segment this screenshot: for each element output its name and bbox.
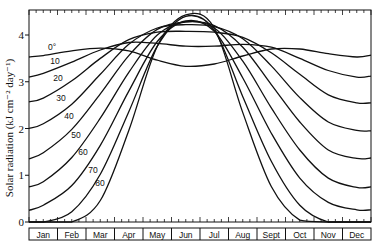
curve-label: 80 (95, 178, 105, 188)
month-label-may: May (149, 230, 166, 240)
y-axis-ticks: 01234 (19, 29, 30, 228)
y-tick-label: 0 (19, 216, 25, 228)
month-label-nov: Nov (321, 230, 337, 240)
curve-label: 0° (48, 42, 56, 52)
month-label-sept: Sept (263, 230, 281, 240)
curve-label: 10 (50, 56, 60, 66)
curve-latitude-80 (29, 13, 371, 222)
month-label-dec: Dec (349, 230, 365, 240)
curve-label: 70 (88, 165, 98, 175)
curve-label: 50 (71, 130, 81, 140)
y-tick-label: 1 (19, 169, 25, 181)
month-label-jul: Jul (209, 230, 220, 240)
month-label-jan: Jan (36, 230, 50, 240)
curve-latitude-30 (29, 25, 371, 132)
month-label-feb: Feb (64, 230, 79, 240)
y-tick-label: 2 (19, 123, 25, 135)
solar-radiation-chart: Solar radiation (kJ cm⁻² day⁻¹) 01234 0°… (0, 0, 380, 250)
month-label-mar: Mar (93, 230, 108, 240)
month-label-apr: Apr (122, 230, 135, 240)
y-tick-label: 3 (19, 76, 25, 88)
curve-label: 40 (64, 111, 74, 121)
month-label-oct: Oct (293, 230, 307, 240)
latitude-curves (29, 13, 371, 222)
month-label-aug: Aug (235, 230, 250, 240)
curve-label: 60 (78, 147, 88, 157)
y-axis-title: Solar radiation (kJ cm⁻² day⁻¹) (3, 58, 16, 197)
curve-latitude-0 (29, 48, 371, 66)
month-axis: JanFebMarAprMayJunJulAugSeptOctNovDec (29, 228, 371, 240)
curve-latitude-10 (29, 42, 371, 77)
month-label-jun: Jun (179, 230, 193, 240)
curve-label: 20 (53, 73, 63, 83)
y-tick-label: 4 (19, 29, 25, 41)
curve-label: 30 (56, 93, 66, 103)
